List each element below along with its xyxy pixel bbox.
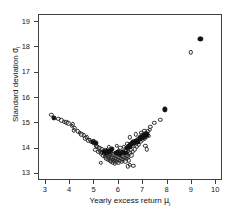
data-point xyxy=(129,153,133,157)
data-point xyxy=(189,50,193,54)
data-point xyxy=(126,164,130,168)
x-tick-mark xyxy=(167,180,168,184)
data-point xyxy=(99,161,103,165)
x-tick-label: 6 xyxy=(108,185,128,194)
plot-area-frame xyxy=(38,14,222,180)
y-tick-mark xyxy=(34,122,38,123)
x-axis-title-subscript: i xyxy=(169,201,170,207)
x-tick-label: 10 xyxy=(205,185,225,194)
y-axis-title-subscript: i xyxy=(15,47,21,48)
data-point xyxy=(162,107,167,112)
data-point xyxy=(131,164,135,168)
x-tick-label: 9 xyxy=(181,185,201,194)
data-point xyxy=(198,36,203,41)
y-tick-mark xyxy=(34,148,38,149)
x-tick-label: 8 xyxy=(157,185,177,194)
x-tick-label: 5 xyxy=(83,185,103,194)
y-axis-title-text: Standard deviation xyxy=(11,53,20,122)
data-point xyxy=(145,147,149,151)
y-tick-mark xyxy=(34,72,38,73)
y-tick-mark xyxy=(34,21,38,22)
x-axis-title: Yearly excess return μi xyxy=(38,196,222,209)
y-tick-mark xyxy=(34,173,38,174)
data-point xyxy=(152,121,156,125)
x-tick-mark xyxy=(45,180,46,184)
x-tick-mark xyxy=(215,180,216,184)
y-axis-title: Standard deviation σi xyxy=(11,1,24,167)
x-tick-mark xyxy=(118,180,119,184)
y-axis-title-symbol: σ xyxy=(11,48,20,53)
x-tick-label: 7 xyxy=(132,185,152,194)
x-tick-mark xyxy=(93,180,94,184)
data-points-layer xyxy=(39,15,221,179)
y-tick-label: 13 xyxy=(0,168,30,177)
data-point xyxy=(148,125,152,129)
x-tick-label: 4 xyxy=(59,185,79,194)
y-tick-mark xyxy=(34,46,38,47)
x-tick-mark xyxy=(142,180,143,184)
x-axis-title-text: Yearly excess return xyxy=(90,196,164,205)
x-tick-mark xyxy=(191,180,192,184)
scatter-plot-figure: 345678910 13141516171819 Yearly excess r… xyxy=(0,0,246,214)
data-point xyxy=(158,118,162,122)
x-tick-mark xyxy=(69,180,70,184)
y-tick-mark xyxy=(34,97,38,98)
x-tick-label: 3 xyxy=(35,185,55,194)
